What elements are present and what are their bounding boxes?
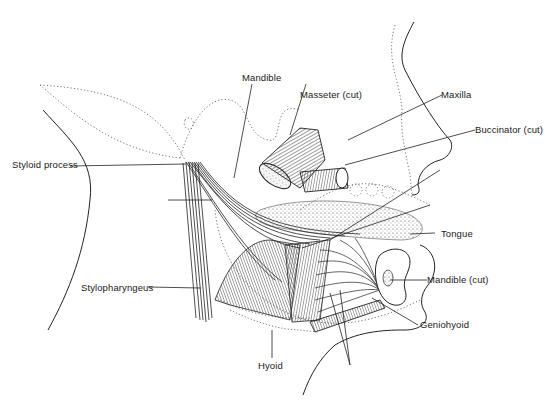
label-hyoid: Hyoid bbox=[258, 361, 283, 371]
hyoglossus-muscle bbox=[215, 240, 330, 322]
label-geniohyoid: Geniohyoid bbox=[420, 320, 469, 330]
label-tongue: Tongue bbox=[441, 229, 473, 239]
label-stylopharyngeus: Stylopharyngeus bbox=[81, 283, 153, 293]
anatomy-illustration bbox=[0, 0, 551, 413]
mandible-cut-section bbox=[375, 249, 410, 305]
label-mandible: Mandible bbox=[242, 73, 281, 83]
label-mandible-cut: Mandible (cut) bbox=[427, 275, 489, 285]
neck-outline bbox=[43, 110, 91, 330]
label-buccinator-cut: Buccinator (cut) bbox=[475, 125, 543, 135]
buccinator-muscle bbox=[300, 168, 348, 192]
label-masseter-cut: Masseter (cut) bbox=[300, 90, 362, 100]
label-styloid-process: Styloid process bbox=[12, 160, 78, 170]
face-profile bbox=[402, 22, 452, 195]
stylopharyngeus-muscle bbox=[183, 162, 212, 322]
label-maxilla: Maxilla bbox=[441, 90, 471, 100]
